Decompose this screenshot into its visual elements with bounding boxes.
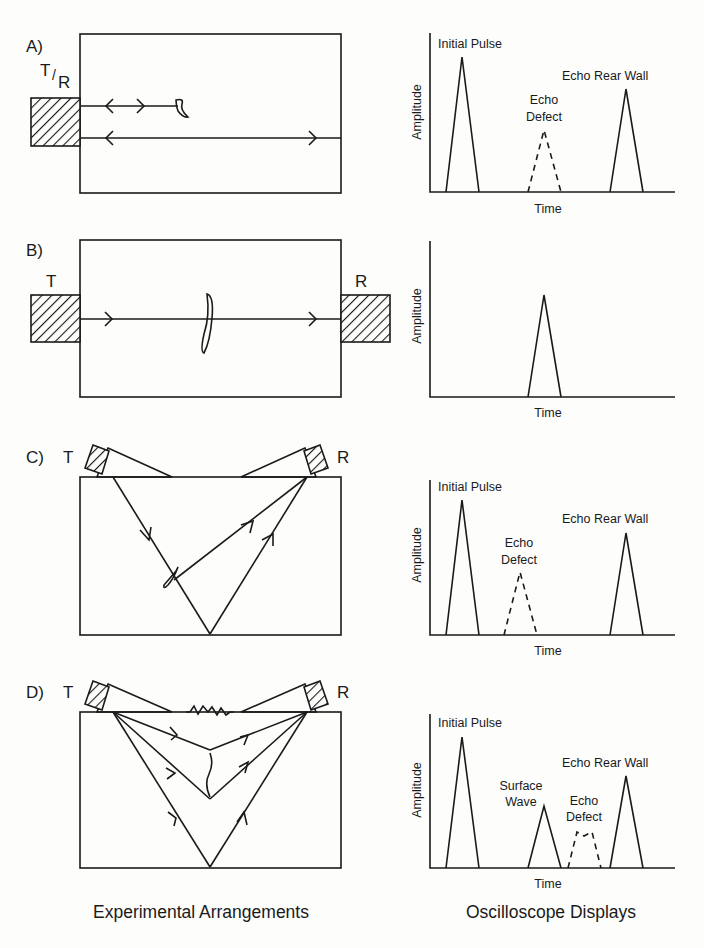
peak-initial-pulse — [446, 57, 479, 192]
defect-icon — [176, 100, 188, 118]
receiver-probe-b — [341, 295, 390, 342]
annot-echo-d: Echo — [570, 794, 599, 808]
transmitter-label-c: T — [63, 448, 73, 467]
annot-echo-c: Echo — [505, 536, 534, 550]
peak-echo-rear-wall — [610, 89, 643, 192]
panel-c-arrangement — [80, 445, 341, 635]
panel-d-arrangement — [80, 681, 341, 868]
annot-rear-wall-c: Echo Rear Wall — [562, 512, 648, 526]
annot-initial-pulse-a: Initial Pulse — [438, 37, 502, 51]
transmitter-probe-d — [85, 681, 109, 710]
peak-echo-defect — [568, 832, 601, 868]
annot-surface-d: Surface — [499, 779, 542, 793]
panel-label-a: A) — [26, 37, 43, 56]
transmitter-probe-c — [85, 445, 109, 474]
peak-transmitted — [528, 295, 561, 397]
oscilloscope-plot-c — [430, 480, 675, 635]
receiver-label-d: R — [337, 683, 349, 702]
annot-defect-a: Defect — [526, 110, 563, 124]
ylabel-d: Amplitude — [410, 762, 424, 818]
receiver-probe-d — [304, 681, 328, 710]
xlabel-c: Time — [534, 644, 561, 658]
specimen-block-c — [80, 477, 341, 635]
peak-echo-defect — [504, 572, 537, 635]
slash: / — [52, 67, 56, 83]
surface-wave-zigzag — [186, 706, 234, 715]
receiver-label-c: R — [337, 448, 349, 467]
defect-icon — [207, 753, 212, 797]
specimen-block-d — [80, 712, 341, 868]
panel-label-c: C) — [26, 448, 44, 467]
annot-rear-wall-d: Echo Rear Wall — [562, 756, 648, 770]
panel-label-b: B) — [26, 241, 43, 260]
caption-oscilloscope-displays: Oscilloscope Displays — [466, 902, 636, 922]
axes — [430, 241, 675, 397]
transducer-label-r: R — [58, 73, 70, 92]
receiver-label-b: R — [355, 272, 367, 291]
oscilloscope-plot-b — [430, 241, 675, 397]
annot-defect-c: Defect — [501, 553, 538, 567]
transceiver-probe-a — [31, 98, 80, 146]
annot-initial-pulse-c: Initial Pulse — [438, 480, 502, 494]
oscilloscope-plot-d — [430, 714, 675, 868]
ylabel-c: Amplitude — [410, 527, 424, 583]
peak-echo-rear-wall — [610, 533, 643, 635]
ylabel-a: Amplitude — [410, 84, 424, 140]
defect-icon — [202, 294, 212, 353]
annot-echo-a: Echo — [530, 93, 559, 107]
panel-a-arrangement — [31, 34, 341, 193]
peak-initial-pulse — [446, 737, 479, 868]
xlabel-a: Time — [534, 202, 561, 216]
annot-defect-d: Defect — [566, 810, 603, 824]
transmitter-probe-b — [31, 295, 80, 342]
specimen-block-a — [80, 34, 341, 193]
annot-rear-wall-a: Echo Rear Wall — [562, 69, 648, 83]
axes — [430, 480, 675, 635]
figure-canvas: A) B) C) D) T / R T R T R T R Initial Pu… — [0, 0, 704, 948]
transmitter-label-d: T — [63, 683, 73, 702]
xlabel-d: Time — [534, 877, 561, 891]
ylabel-b: Amplitude — [410, 288, 424, 344]
transmitter-label-b: T — [46, 272, 56, 291]
peak-initial-pulse — [446, 500, 479, 635]
panel-label-d: D) — [26, 683, 44, 702]
caption-experimental-arrangements: Experimental Arrangements — [93, 902, 309, 922]
annot-wave-d: Wave — [505, 795, 537, 809]
receiver-probe-c — [304, 445, 328, 474]
peak-surface-wave — [528, 806, 561, 868]
peak-echo-rear-wall — [610, 776, 643, 868]
peak-echo-defect — [528, 130, 561, 192]
panel-b-arrangement — [31, 240, 390, 397]
annot-initial-pulse-d: Initial Pulse — [438, 716, 502, 730]
transducer-label-t: T — [40, 61, 50, 80]
xlabel-b: Time — [534, 406, 561, 420]
